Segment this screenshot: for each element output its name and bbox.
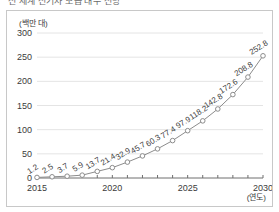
data-point-label: 172.6 bbox=[218, 77, 240, 96]
x-axis-tick-label: 2025 bbox=[178, 183, 198, 193]
y-axis-tick-label: 250 bbox=[17, 52, 32, 62]
data-point-marker bbox=[185, 128, 190, 133]
data-point-marker bbox=[216, 107, 221, 112]
data-point-marker bbox=[155, 147, 160, 152]
data-point-label: 208.8 bbox=[233, 60, 255, 79]
data-point-label: 5.9 bbox=[71, 160, 86, 174]
data-point-label: 77.4 bbox=[159, 124, 177, 140]
data-point-label: 252.8 bbox=[248, 38, 270, 57]
y-axis-tick-label: 200 bbox=[17, 76, 32, 86]
chart-title: 전 세계 전기차 보급 대수 전망 bbox=[8, 0, 120, 7]
data-series-line bbox=[37, 56, 263, 178]
data-point-marker bbox=[170, 138, 175, 143]
data-point-label: 3.7 bbox=[56, 161, 71, 175]
y-axis-tick-label: 50 bbox=[22, 149, 32, 159]
y-axis-tick-label: 300 bbox=[17, 28, 32, 38]
data-point-marker bbox=[140, 154, 145, 159]
data-point-marker bbox=[35, 175, 40, 180]
data-point-marker bbox=[95, 169, 100, 174]
data-point-label: 2.5 bbox=[41, 162, 56, 176]
data-point-marker bbox=[65, 174, 70, 179]
data-point-marker bbox=[80, 173, 85, 178]
chart-figure: 전 세계 전기차 보급 대수 전망 (백만 대) 050100150200250… bbox=[0, 0, 279, 212]
y-axis-tick-label: 100 bbox=[17, 125, 32, 135]
data-point-marker bbox=[261, 54, 266, 59]
y-axis-tick-label: 150 bbox=[17, 101, 32, 111]
x-axis-unit-label: (연도) bbox=[247, 191, 266, 202]
data-point-marker bbox=[110, 165, 115, 170]
data-point-label: 13.7 bbox=[84, 155, 102, 171]
data-point-marker bbox=[231, 92, 236, 97]
chart-title-strip: 전 세계 전기차 보급 대수 전망 bbox=[0, 0, 279, 9]
x-axis-tick-label: 2020 bbox=[102, 183, 122, 193]
chart-container: (백만 대) 050100150200250300201520202025203… bbox=[6, 10, 273, 207]
x-axis-tick-label: 2015 bbox=[27, 183, 47, 193]
line-chart-plot: 05010015020025030020152020202520301.22.5… bbox=[7, 11, 272, 206]
data-point-marker bbox=[200, 119, 205, 124]
data-point-marker bbox=[246, 75, 251, 80]
data-point-marker bbox=[50, 174, 55, 179]
data-point-marker bbox=[125, 160, 130, 165]
